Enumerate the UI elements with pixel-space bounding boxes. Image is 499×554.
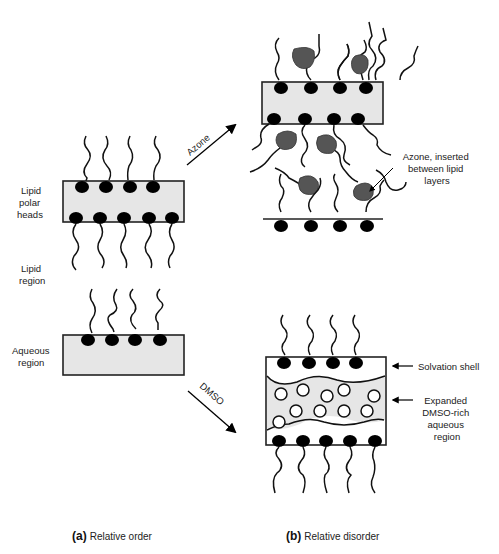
svg-text:Azone: Azone xyxy=(184,132,212,158)
dmso-arrow: DMSO xyxy=(188,380,235,432)
azone-arrow: Azone xyxy=(184,125,235,165)
panel-b-azone-bilayer xyxy=(250,22,418,232)
label-dmso-region: Expanded DMSO-rich aqueous region xyxy=(422,395,472,442)
panel-b-dmso-bilayer xyxy=(266,315,413,493)
label-azone-inserted: Azone, inserted between lipid layers xyxy=(403,151,472,186)
label-solvation-shell: Solvation shell xyxy=(418,361,479,372)
caption-panel-b: (b)Relative disorder xyxy=(286,529,380,543)
label-aqueous-region: Aqueous region xyxy=(12,345,52,368)
panel-a-bilayer-bottom xyxy=(63,289,184,375)
caption-panel-a: (a)Relative order xyxy=(72,529,153,543)
membrane-diagram: Lipid polar heads Lipid region Aqueous r… xyxy=(0,0,499,554)
svg-text:(b)Relative disorder: (b)Relative disorder xyxy=(286,529,380,543)
svg-text:(a)Relative order: (a)Relative order xyxy=(72,529,153,543)
label-lipid-polar-heads: Lipid polar heads xyxy=(17,185,44,220)
label-lipid-region: Lipid region xyxy=(19,263,45,286)
panel-a-bilayer-top xyxy=(63,136,184,270)
